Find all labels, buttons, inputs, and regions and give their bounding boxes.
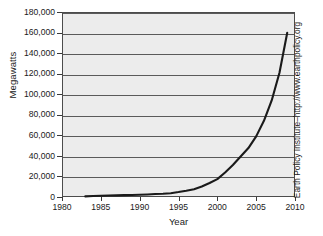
y-tick-label: 40,000 bbox=[0, 152, 55, 161]
x-tick-label: 1985 bbox=[81, 202, 121, 212]
y-tick-label: 100,000 bbox=[0, 90, 55, 99]
y-tick-label: 140,000 bbox=[0, 49, 55, 58]
source-credit-label: Earth Policy Institute–http://www.earthp… bbox=[291, 3, 303, 217]
y-tick-label: 0 bbox=[0, 193, 55, 202]
y-tick-label: 20,000 bbox=[0, 172, 55, 181]
x-tick-label: 1980 bbox=[42, 202, 82, 212]
wind-capacity-chart-figure: Megawatts 020,00040,00060,00080,000100,0… bbox=[0, 0, 323, 236]
y-tick-label: 60,000 bbox=[0, 131, 55, 140]
x-axis-tick-labels: 1980198519901995200020052010 bbox=[0, 202, 323, 214]
y-tick-label: 160,000 bbox=[0, 28, 55, 37]
y-tick-label: 120,000 bbox=[0, 69, 55, 78]
x-tick-label: 1990 bbox=[120, 202, 160, 212]
y-tick-label: 180,000 bbox=[0, 8, 55, 17]
wind-capacity-line bbox=[85, 33, 287, 197]
x-axis-title: Year bbox=[62, 216, 295, 227]
data-series-curve bbox=[62, 12, 295, 198]
y-tick-label: 80,000 bbox=[0, 110, 55, 119]
x-tick-label: 2000 bbox=[197, 202, 237, 212]
x-tick-label: 1995 bbox=[159, 202, 199, 212]
x-tick-label: 2005 bbox=[236, 202, 276, 212]
y-axis-tick-labels: 020,00040,00060,00080,000100,000120,0001… bbox=[0, 0, 59, 236]
